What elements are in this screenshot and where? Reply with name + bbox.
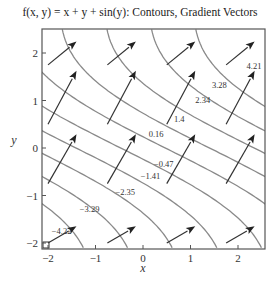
gradient-arrow-shaft [226, 142, 250, 184]
gradient-arrow-shaft [107, 47, 129, 65]
contour-label: 2.34 [195, 95, 211, 105]
y-tick-label: −1 [26, 190, 38, 202]
arrowhead-icon [247, 71, 254, 81]
contour-labels: −4.22−3.29−2.35−1.41−0.470.161.42.343.28… [52, 61, 262, 236]
arrowhead-icon [126, 226, 136, 234]
arrowhead-icon [188, 71, 195, 81]
x-axis-label: x [139, 261, 146, 275]
gradient-arrow-shaft [226, 47, 248, 65]
arrowhead-icon [69, 71, 76, 81]
arrowhead-icon [128, 134, 136, 144]
contour-plot: −4.22−3.29−2.35−1.41−0.470.161.42.343.28… [0, 0, 280, 290]
y-tick-label: −2 [26, 237, 38, 249]
gradient-arrow-shaft [107, 79, 131, 125]
arrowhead-icon [245, 226, 255, 234]
x-tick-label: −1 [90, 252, 102, 264]
y-tick-label: 2 [33, 47, 39, 59]
gradient-arrow-shaft [167, 231, 188, 243]
arrowhead-icon [186, 226, 196, 234]
contour-label: −3.29 [80, 204, 100, 214]
y-tick-label: 0 [33, 142, 39, 154]
y-axis-ticks: −2−1012 [26, 47, 46, 249]
gradient-arrow-shaft [48, 142, 72, 184]
arrowhead-icon [129, 71, 136, 81]
x-tick-label: −2 [42, 252, 54, 264]
gradient-arrow-shaft [48, 79, 72, 125]
gradient-arrow-shaft [167, 47, 189, 65]
contour-line [0, 29, 217, 248]
contour-line [196, 29, 280, 248]
gradient-vectors [43, 41, 255, 248]
contour-label: 4.21 [247, 61, 262, 71]
arrowhead-icon [247, 134, 255, 144]
contour-line [0, 29, 128, 248]
x-tick-label: 1 [188, 252, 194, 264]
contour-label: −2.35 [115, 187, 135, 197]
contour-label: 3.28 [212, 80, 227, 90]
contour-label: 1.4 [174, 114, 185, 124]
gradient-arrow-shaft [48, 47, 70, 65]
arrowhead-icon [69, 134, 77, 144]
gradient-arrow-shaft [107, 142, 131, 184]
y-axis-label: y [10, 133, 17, 147]
contour-label: 0.16 [149, 129, 164, 139]
contour-label: −0.47 [154, 159, 174, 169]
gradient-arrow-shaft [226, 231, 247, 243]
x-tick-label: 2 [235, 252, 241, 264]
contour-label: −1.41 [141, 171, 161, 181]
arrowhead-icon [188, 134, 196, 144]
y-tick-label: 1 [33, 95, 39, 107]
